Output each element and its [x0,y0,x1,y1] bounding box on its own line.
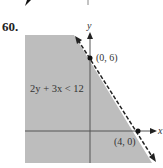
inequality-graph: x y (0, 6) (4, 0) 2y + 3x < 12 [0,0,163,168]
y-axis-arrow-icon [87,32,93,39]
y-axis-label: y [86,20,92,31]
point-label-0-6: (0, 6) [96,52,118,64]
inequality-label: 2y + 3x < 12 [30,83,84,94]
x-axis-arrow-icon [150,128,157,134]
x-axis-label: x [157,125,163,136]
previous-figure-arrow-fragment [25,0,31,6]
point-label-4-0: (4, 0) [114,136,136,148]
point-4-0 [136,129,141,134]
point-0-6 [88,56,93,61]
